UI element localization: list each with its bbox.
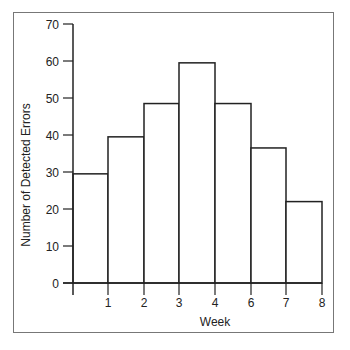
histogram-bar bbox=[179, 63, 215, 283]
x-tick-label: 8 bbox=[319, 296, 326, 310]
histogram-bar bbox=[286, 202, 322, 283]
x-axis-label: Week bbox=[200, 315, 231, 329]
y-tick-label: 20 bbox=[46, 203, 60, 217]
y-tick-label: 0 bbox=[52, 277, 59, 291]
histogram-bar bbox=[144, 104, 179, 283]
x-tick-label: 1 bbox=[105, 296, 112, 310]
y-tick-label: 70 bbox=[46, 18, 60, 32]
x-tick-label: 6 bbox=[248, 296, 255, 310]
y-tick-label: 50 bbox=[46, 92, 60, 106]
histogram-bar bbox=[73, 174, 108, 283]
x-tick-label: 4 bbox=[212, 296, 219, 310]
histogram-bar bbox=[215, 104, 251, 283]
histogram-bar bbox=[251, 148, 286, 283]
y-tick-label: 60 bbox=[46, 55, 60, 69]
y-axis: 010203040506070 bbox=[46, 18, 73, 296]
x-axis: 1234678 bbox=[63, 283, 326, 310]
histogram-chart: 010203040506070 1234678 Number of Detect… bbox=[0, 0, 350, 350]
x-tick-label: 7 bbox=[283, 296, 290, 310]
x-tick-label: 2 bbox=[141, 296, 148, 310]
y-tick-label: 40 bbox=[46, 129, 60, 143]
y-tick-label: 10 bbox=[46, 240, 60, 254]
y-axis-label: Number of Detected Errors bbox=[19, 103, 33, 246]
bars bbox=[73, 63, 322, 283]
histogram-bar bbox=[108, 137, 144, 283]
y-tick-label: 30 bbox=[46, 166, 60, 180]
x-tick-label: 3 bbox=[176, 296, 183, 310]
